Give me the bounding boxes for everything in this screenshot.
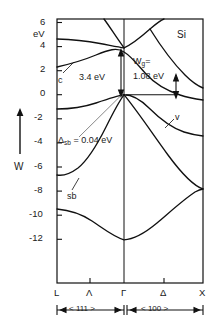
direction-label-111: < 111 > — [69, 305, 95, 313]
spin-orbit-subscript: sb — [64, 139, 71, 146]
plot-frame — [57, 19, 203, 283]
x-tick-label-Delta: Δ — [160, 288, 166, 298]
leader-line-sb — [72, 178, 79, 190]
direct-gap-arrow — [119, 50, 124, 97]
material-label: Si — [177, 30, 186, 39]
indirect-gap-equals: = — [145, 56, 150, 66]
x-tick-label-Lambda: Λ — [86, 288, 92, 298]
direct-gap-label: 3.4 eV — [79, 73, 105, 82]
spin-orbit-value: = 0.04 eV — [71, 135, 112, 145]
indirect-gap-subscript: g — [142, 60, 146, 67]
band-conduction-high-left — [104, 19, 124, 48]
band-valence-upper — [57, 95, 203, 136]
band-label-sb: sb — [67, 192, 77, 201]
x-tick-marks — [90, 278, 164, 283]
plot-area — [0, 0, 221, 335]
band-valence-gamma-x — [124, 95, 203, 189]
band-structure-figure: W 6 eV 4 2 0 -2 -4 -6 -8 -10 -12 — [0, 0, 221, 335]
band-conduction-upper-left — [57, 39, 124, 48]
band-label-v: v — [175, 113, 180, 122]
x-tick-label-X: X — [199, 288, 205, 298]
indirect-gap-symbol: W — [133, 56, 142, 66]
band-valence-lowest — [57, 189, 203, 240]
indirect-gap-label-line1: Wg= — [133, 57, 150, 66]
direction-label-100: < 100 > — [141, 305, 168, 313]
y-tick-marks — [57, 23, 62, 240]
indirect-gap-label-line2: 1.08 eV — [133, 72, 164, 81]
x-tick-label-Gamma: Γ — [121, 288, 126, 298]
spin-orbit-label: Δsb = 0.04 eV — [58, 136, 112, 145]
x-tick-label-L: L — [54, 288, 59, 298]
band-conduction-upper-right — [124, 19, 164, 48]
band-label-c: c — [58, 76, 63, 85]
